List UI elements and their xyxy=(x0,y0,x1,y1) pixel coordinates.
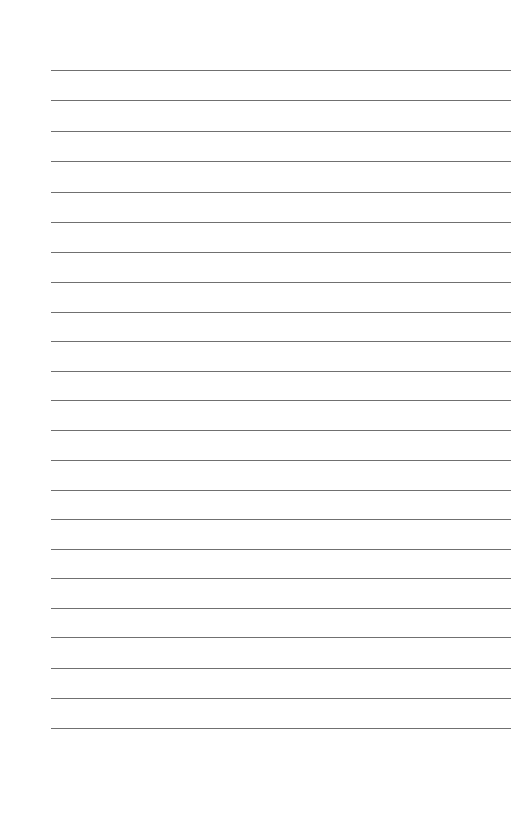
ruled-line xyxy=(51,698,511,699)
ruled-line xyxy=(51,490,511,491)
ruled-line xyxy=(51,460,511,461)
ruled-line xyxy=(51,728,511,729)
ruled-line xyxy=(51,161,511,162)
ruled-line xyxy=(51,637,511,638)
ruled-line xyxy=(51,549,511,550)
lined-paper-page xyxy=(0,0,525,829)
ruled-line xyxy=(51,578,511,579)
ruled-line xyxy=(51,341,511,342)
ruled-line xyxy=(51,131,511,132)
ruled-line xyxy=(51,430,511,431)
ruled-line xyxy=(51,222,511,223)
ruled-line xyxy=(51,192,511,193)
ruled-line xyxy=(51,668,511,669)
ruled-line xyxy=(51,100,511,101)
ruled-line xyxy=(51,252,511,253)
ruled-line xyxy=(51,70,511,71)
ruled-line xyxy=(51,400,511,401)
ruled-line xyxy=(51,608,511,609)
ruled-line xyxy=(51,519,511,520)
ruled-line xyxy=(51,282,511,283)
ruled-line xyxy=(51,371,511,372)
ruled-line xyxy=(51,312,511,313)
